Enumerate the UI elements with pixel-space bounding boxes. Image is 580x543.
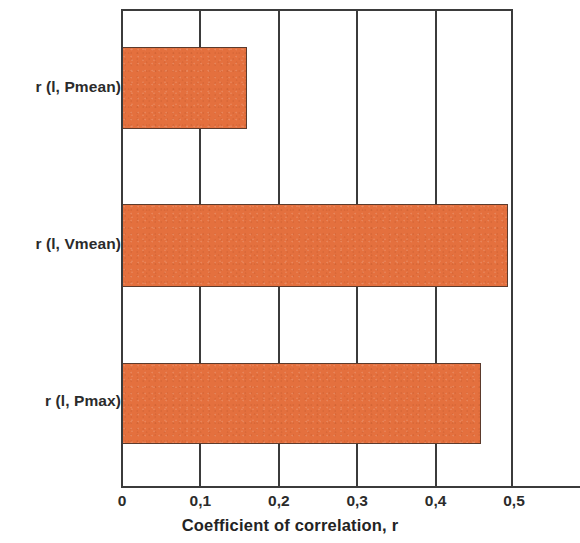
xtick-label-0.2: 0,2 [268, 492, 290, 510]
xtick-label-0.1: 0,1 [190, 492, 212, 510]
horizontal-bar-chart: r (l, Pmean) r (l, Vmean) r (l, Pmax) 0 … [0, 0, 580, 543]
xtick-label-0.5: 0,5 [503, 492, 525, 510]
xtick-label-0: 0 [118, 492, 127, 510]
x-axis-baseline-extension [513, 486, 580, 488]
category-axis-labels: r (l, Pmean) r (l, Vmean) r (l, Pmax) [0, 0, 121, 543]
bar-texture [123, 205, 507, 286]
x-axis-title: Coefficient of correlation, r [0, 516, 580, 535]
plot-area [121, 9, 513, 488]
bar-pmax[interactable] [123, 363, 481, 444]
category-label-vmean: r (l, Vmean) [9, 235, 121, 253]
category-label-pmean: r (l, Pmean) [9, 78, 121, 96]
bar-vmean[interactable] [123, 204, 508, 287]
xtick-label-0.4: 0,4 [425, 492, 447, 510]
bar-texture [123, 364, 480, 443]
xtick-label-0.3: 0,3 [346, 492, 368, 510]
bar-pmean[interactable] [123, 47, 247, 129]
bar-texture [123, 48, 246, 128]
category-label-pmax: r (l, Pmax) [9, 392, 121, 410]
